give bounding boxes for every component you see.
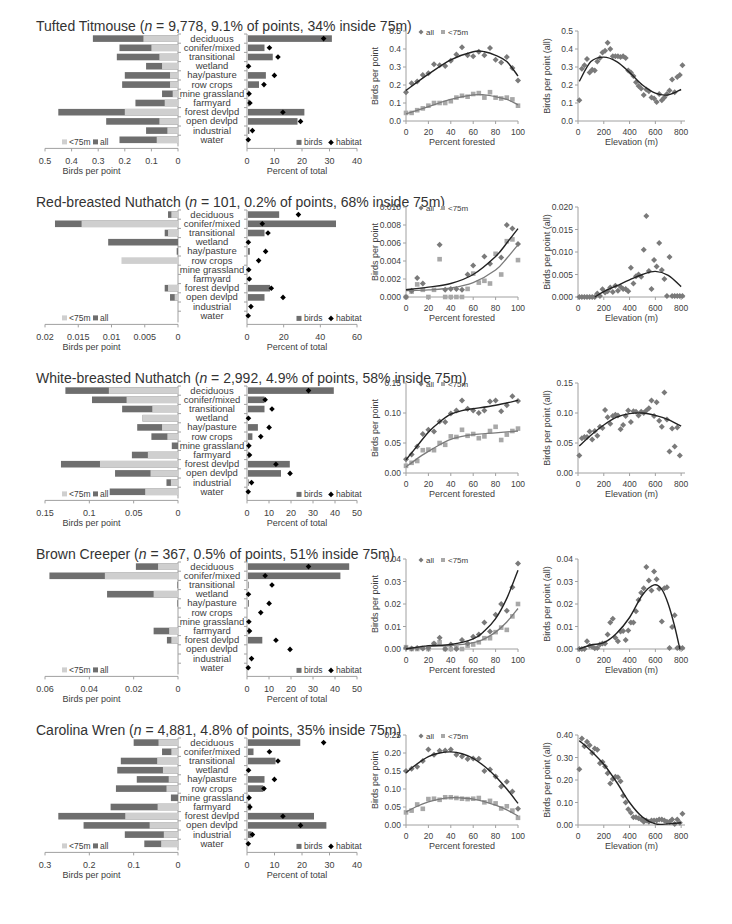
tick-label: 0 bbox=[404, 303, 409, 313]
species-panel-1: Red-breasted Nuthatch (n = 101, 0.2% of … bbox=[0, 194, 732, 372]
point-all bbox=[669, 426, 675, 432]
bar-all bbox=[108, 239, 178, 246]
bar-birds bbox=[248, 81, 259, 88]
tick-label: 0 bbox=[404, 655, 409, 665]
legend-label-all: all bbox=[426, 380, 434, 389]
legend-swatch-lt75 bbox=[441, 734, 445, 738]
point-lt75 bbox=[426, 295, 431, 300]
bar-lt75 bbox=[82, 221, 178, 228]
point-all bbox=[623, 637, 629, 643]
tick-label: 0.000 bbox=[380, 292, 402, 302]
x-axis-title: Birds per point bbox=[62, 518, 121, 528]
bar-lt75 bbox=[143, 415, 178, 422]
tick-label: 0.20 bbox=[556, 775, 573, 785]
bar-lt75 bbox=[109, 387, 178, 394]
legend-label-lt75: <75m bbox=[69, 137, 91, 147]
bar-birds bbox=[248, 230, 265, 237]
point-all bbox=[476, 410, 482, 416]
bar-lt75 bbox=[167, 127, 178, 134]
point-all bbox=[625, 628, 631, 634]
legend-swatch-all bbox=[93, 843, 98, 848]
point-lt75 bbox=[460, 295, 465, 300]
legend-label-all: all bbox=[426, 28, 434, 37]
point-all bbox=[679, 62, 685, 68]
tick-label: 0.15 bbox=[384, 378, 401, 388]
tick-label: 0.00 bbox=[384, 468, 401, 478]
habitat-marker bbox=[256, 258, 262, 264]
point-all bbox=[605, 40, 611, 46]
bar-birds bbox=[248, 294, 265, 301]
habitat-marker bbox=[272, 777, 278, 783]
legend-label-all: all bbox=[100, 313, 109, 323]
tick-label: 0.40 bbox=[556, 730, 573, 740]
point-all bbox=[646, 577, 652, 583]
tick-label: 0.2 bbox=[83, 860, 96, 870]
tick-label: 40 bbox=[352, 156, 362, 166]
bar-lt75 bbox=[171, 749, 178, 756]
habitat-label: water bbox=[199, 486, 223, 497]
tick-label: 0.015 bbox=[67, 332, 90, 342]
tick-label: 20 bbox=[424, 303, 434, 313]
bar-lt75 bbox=[166, 785, 178, 792]
tick-label: 0 bbox=[244, 684, 249, 694]
tick-label: 0.20 bbox=[384, 748, 401, 758]
tick-label: 0 bbox=[175, 508, 180, 518]
point-lt75 bbox=[488, 281, 493, 286]
point-all bbox=[481, 619, 487, 625]
point-all bbox=[515, 561, 521, 567]
point-all bbox=[459, 44, 465, 50]
bar-lt75 bbox=[171, 637, 178, 644]
habitat-marker bbox=[247, 628, 253, 634]
bar-birds bbox=[248, 563, 349, 570]
point-all bbox=[504, 779, 510, 785]
tick-label: 0.02 bbox=[384, 599, 401, 609]
tick-label: 600 bbox=[648, 303, 662, 313]
percent-of-total-chart: 010203040Percent of totalbirdshabitat bbox=[244, 34, 362, 176]
habitat-marker bbox=[249, 656, 255, 662]
tick-label: 0.01 bbox=[384, 622, 401, 632]
point-all bbox=[437, 242, 443, 248]
point-lt75 bbox=[493, 425, 498, 430]
point-all bbox=[515, 806, 521, 812]
habitat-marker bbox=[272, 73, 278, 79]
legend-swatch-habitat bbox=[328, 844, 334, 850]
tick-label: 0.1 bbox=[83, 508, 96, 518]
bar-lt75 bbox=[158, 804, 178, 811]
x-axis-title: Percent forested bbox=[429, 137, 495, 147]
legend-label-lt75: <75m bbox=[69, 841, 91, 851]
bar-lt75 bbox=[170, 81, 178, 88]
x-axis-title: Percent of total bbox=[267, 870, 328, 880]
legend-swatch-lt75 bbox=[441, 558, 445, 562]
habitat-labels: deciduousconifer/mixedtransitionalwetlan… bbox=[180, 737, 244, 849]
tick-label: 600 bbox=[648, 655, 662, 665]
point-all bbox=[602, 407, 608, 413]
tick-label: 0.05 bbox=[384, 438, 401, 448]
legend-label-all: all bbox=[426, 732, 434, 741]
habitat-marker bbox=[287, 471, 293, 477]
point-all bbox=[643, 213, 649, 219]
bar-lt75 bbox=[162, 424, 178, 431]
bar-all bbox=[171, 795, 178, 802]
point-lt75 bbox=[460, 428, 465, 433]
point-all bbox=[470, 53, 476, 59]
point-all bbox=[625, 408, 631, 414]
tick-label: 40 bbox=[446, 127, 456, 137]
trendline-lt75 bbox=[406, 94, 518, 113]
tick-label: 0 bbox=[404, 831, 409, 841]
tick-label: 800 bbox=[674, 479, 688, 489]
tick-label: 800 bbox=[674, 127, 688, 137]
elevation-scatter: 0.000.050.100.150200400600800Elevation (… bbox=[542, 378, 688, 499]
legend-label-lt75: <75m bbox=[448, 732, 469, 741]
tick-label: 0.02 bbox=[556, 599, 573, 609]
bar-lt75 bbox=[145, 489, 178, 496]
x-axis-title: Percent forested bbox=[429, 313, 495, 323]
point-lt75 bbox=[449, 295, 454, 300]
point-all bbox=[493, 57, 499, 63]
tick-label: 80 bbox=[491, 655, 501, 665]
bar-lt75 bbox=[168, 230, 178, 237]
tick-label: 20 bbox=[424, 831, 434, 841]
bar-lt75 bbox=[157, 758, 178, 765]
bar-birds bbox=[248, 582, 249, 589]
trendline-all bbox=[579, 585, 680, 649]
point-all bbox=[584, 56, 590, 62]
